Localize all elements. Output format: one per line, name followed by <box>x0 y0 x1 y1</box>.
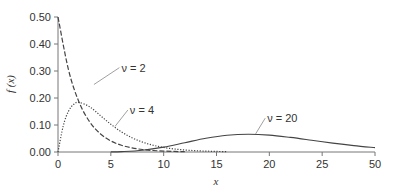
y-tick-label: 0.30 <box>30 65 51 77</box>
curve-label: ν = 20 <box>267 112 297 124</box>
label-leader-line <box>256 118 266 134</box>
x-tick-label: 25 <box>316 158 328 170</box>
curve-label: ν = 2 <box>121 62 145 74</box>
label-leader-line <box>115 110 128 126</box>
label-leader-line <box>94 68 119 85</box>
y-axis: 0.000.100.200.300.400.50 <box>30 11 58 158</box>
y-tick-label: 0.40 <box>30 38 51 50</box>
curve-label: ν = 4 <box>130 104 154 116</box>
x-tick-label: 10 <box>158 158 170 170</box>
chi-square-density-chart: 0.000.100.200.300.400.50 051015202550 ν … <box>0 0 396 191</box>
x-tick-label: 15 <box>210 158 222 170</box>
curve-nu-20 <box>111 134 375 152</box>
x-tick-label: 20 <box>263 158 275 170</box>
y-tick-label: 0.00 <box>30 146 51 158</box>
x-axis: 051015202550 <box>55 152 381 170</box>
curves <box>58 17 375 152</box>
y-tick-label: 0.10 <box>30 119 51 131</box>
x-tick-label: 50 <box>369 158 381 170</box>
x-tick-label: 5 <box>108 158 114 170</box>
curve-labels: ν = 2ν = 4ν = 20 <box>94 62 298 134</box>
y-tick-label: 0.20 <box>30 92 51 104</box>
x-axis-title: x <box>213 175 219 187</box>
y-tick-label: 0.50 <box>30 11 51 23</box>
y-axis-title: f (x) <box>4 75 17 93</box>
x-tick-label: 0 <box>55 158 61 170</box>
curve-nu-2 <box>58 17 185 152</box>
